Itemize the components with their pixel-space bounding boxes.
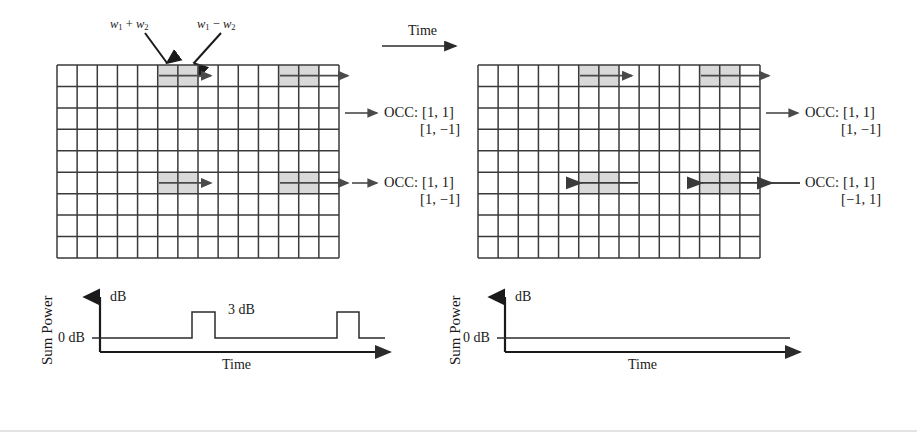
- left-occ-top-line1-row: OCC: [1, 1]: [384, 104, 460, 121]
- left-occ-bottom-line1: [1, 1]: [422, 174, 454, 190]
- right-occ-top-line1: [1, 1]: [843, 104, 875, 120]
- left-chart-yaxis-unit: dB: [110, 290, 126, 304]
- left-occ-top-line1: [1, 1]: [422, 104, 454, 120]
- right-occ-bottom-label: OCC: [1, 1] [−1, 1]: [805, 174, 881, 208]
- right-resource-grid: [478, 65, 772, 258]
- top-time-label: Time: [408, 24, 437, 38]
- left-chart-peak-label-3db: 3 dB: [228, 303, 255, 317]
- annotation-w-sum: w1 + w2: [110, 18, 149, 31]
- right-occ-bottom-line2-row: [−1, 1]: [805, 191, 881, 208]
- figure-canvas: [0, 0, 917, 433]
- left-occ-top-prefix: OCC:: [384, 104, 418, 120]
- right-occ-top-line2: [1, −1]: [841, 121, 881, 137]
- annotation-w-diff-sub2: 2: [231, 22, 235, 32]
- right-chart-ytick-0db: 0 dB: [463, 331, 490, 345]
- figure-root: Time w1 + w2 w1 − w2 OCC: [1, 1] [1, −1]…: [0, 0, 917, 433]
- left-resource-grid: [57, 65, 348, 258]
- right-chart-xlabel-time: Time: [628, 358, 657, 372]
- right-grid-vlines: [478, 65, 760, 258]
- annotation-w-diff-op: −: [213, 17, 220, 31]
- left-grid-vlines: [57, 65, 339, 258]
- annotation-w-diff: w1 − w2: [197, 18, 236, 31]
- left-occ-bottom-line2-row: [1, −1]: [384, 191, 460, 208]
- right-occ-top-line1-row: OCC: [1, 1]: [805, 104, 881, 121]
- right-occ-top-label: OCC: [1, 1] [1, −1]: [805, 104, 881, 138]
- left-occ-bottom-line1-row: OCC: [1, 1]: [384, 174, 460, 191]
- annotation-w-sum-sub2: 2: [144, 22, 148, 32]
- right-occ-bottom-line2: [−1, 1]: [841, 191, 881, 207]
- left-occ-bottom-line2: [1, −1]: [420, 191, 460, 207]
- annotation-arrow-w-diff: [194, 33, 221, 63]
- sum-power-chart-right: [497, 297, 800, 352]
- right-occ-bottom-line1: [1, 1]: [843, 174, 875, 190]
- left-chart-ytick-0db: 0 dB: [58, 331, 85, 345]
- left-occ-top-line2: [1, −1]: [420, 121, 460, 137]
- right-chart-yaxis-unit: dB: [515, 290, 531, 304]
- right-chart-ylabel-sum-power: Sum Power: [448, 295, 463, 365]
- left-occ-top-label: OCC: [1, 1] [1, −1]: [384, 104, 460, 138]
- left-occ-bottom-label: OCC: [1, 1] [1, −1]: [384, 174, 460, 208]
- right-occ-top-line2-row: [1, −1]: [805, 121, 881, 138]
- annotation-w-sum-op: +: [126, 17, 133, 31]
- right-occ-bottom-line1-row: OCC: [1, 1]: [805, 174, 881, 191]
- annotation-w-diff-var2: w: [223, 17, 231, 31]
- right-occ-top-prefix: OCC:: [805, 104, 839, 120]
- left-occ-top-line2-row: [1, −1]: [384, 121, 460, 138]
- right-occ-bottom-prefix: OCC:: [805, 174, 839, 190]
- annotation-w-sum-var2: w: [136, 17, 144, 31]
- left-chart-xlabel-time: Time: [222, 358, 251, 372]
- annotation-arrow-w-sum: [145, 33, 167, 63]
- left-occ-bottom-prefix: OCC:: [384, 174, 418, 190]
- left-chart-ylabel-sum-power: Sum Power: [40, 295, 55, 365]
